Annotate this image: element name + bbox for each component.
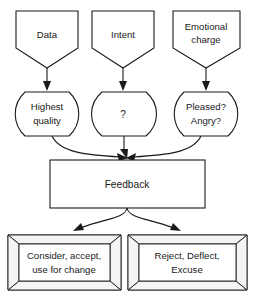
reject-bevel-top xyxy=(128,235,247,244)
node-data[interactable]: Data xyxy=(16,11,78,68)
edge-data-to-highest-quality xyxy=(43,68,51,91)
node-emotional-charge-label-line1: Emotional xyxy=(185,21,228,32)
node-data-label: Data xyxy=(37,29,58,40)
accept-bevel-left xyxy=(8,235,19,290)
node-reject[interactable]: Reject, Deflect, Excuse xyxy=(128,235,247,290)
node-feedback[interactable]: Feedback xyxy=(50,160,205,208)
node-unknown[interactable]: ? xyxy=(92,92,157,136)
node-reject-label-line1: Reject, Deflect, xyxy=(154,250,219,261)
node-pleased-angry-label-line2: Angry? xyxy=(191,115,221,126)
node-feedback-label: Feedback xyxy=(105,179,151,190)
edge-feedback-to-reject xyxy=(127,208,181,231)
node-pleased-angry-label-line1: Pleased? xyxy=(186,101,226,112)
accept-bevel-top xyxy=(8,235,121,244)
reject-bevel-bottom xyxy=(128,281,247,290)
node-emotional-charge-label-line2: charge xyxy=(191,34,220,45)
accept-bevel-right xyxy=(110,235,121,290)
flowchart-svg: Data Intent Emotional charge Highest xyxy=(0,0,255,296)
accept-bevel-bottom xyxy=(8,281,121,290)
node-highest-quality-label-line2: quality xyxy=(33,115,61,126)
node-intent-label: Intent xyxy=(111,29,135,40)
edge-pleased-angry-to-feedback xyxy=(126,136,201,161)
node-accept[interactable]: Consider, accept, use for change xyxy=(8,235,121,290)
edge-emotional-charge-to-pleased-angry xyxy=(202,68,210,91)
edge-feedback-to-accept xyxy=(73,208,127,231)
reject-bevel-right xyxy=(236,235,247,290)
node-highest-quality-label-line1: Highest xyxy=(31,101,64,112)
edge-highest-quality-to-feedback xyxy=(52,136,128,161)
node-accept-label-line1: Consider, accept, xyxy=(27,250,101,261)
node-emotional-charge[interactable]: Emotional charge xyxy=(173,11,240,68)
flowchart-canvas: Data Intent Emotional charge Highest xyxy=(0,0,255,296)
node-pleased-angry[interactable]: Pleased? Angry? xyxy=(174,92,238,136)
node-unknown-label: ? xyxy=(120,109,126,120)
reject-bevel-left xyxy=(128,235,139,290)
node-reject-label-line2: Excuse xyxy=(171,264,202,275)
edge-intent-to-unknown xyxy=(119,68,127,91)
node-intent[interactable]: Intent xyxy=(92,11,154,68)
node-accept-label-line2: use for change xyxy=(32,264,95,275)
node-highest-quality[interactable]: Highest quality xyxy=(15,92,79,136)
